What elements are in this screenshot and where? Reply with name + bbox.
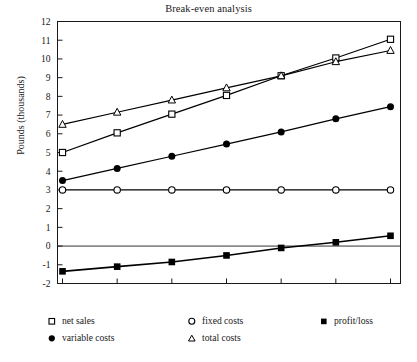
open-circle-marker [333,187,339,193]
filled-square-marker [278,245,285,252]
filled-square-marker [59,268,66,275]
svg-text:-1: -1 [43,259,51,270]
svg-text:1: 1 [46,222,51,233]
series-net-sales [59,36,393,155]
legend-item-net-sales[interactable]: net sales [46,312,114,329]
series-profit-loss [59,232,394,274]
plot-frame [58,22,401,284]
y-tick-labels: 1211109876543210-1-2 [41,16,51,289]
series-variable-costs [59,103,394,184]
filled-circle-marker [59,177,66,184]
svg-text:7: 7 [46,109,51,120]
filled-circle-marker [114,165,121,172]
open-circle-marker [169,187,175,193]
plot-area: 1211109876543210-1-2 [0,0,417,312]
open-square-marker [169,111,175,117]
legend-item-fixed-costs[interactable]: fixed costs [186,312,243,329]
page-footer-fragment [0,353,417,362]
filled-square-marker [387,232,394,239]
legend-label: net sales [60,315,95,326]
filled-circle-icon [46,332,60,344]
legend-label: fixed costs [200,315,243,326]
open-square-marker [223,92,229,98]
svg-text:8: 8 [46,91,51,102]
chart-figure: Break-even analysis Pounds (thousands) 1… [0,0,417,362]
open-square-icon [46,315,60,327]
legend-column-1: net sales variable costs [46,312,114,346]
filled-square-marker [169,259,176,266]
open-circle-marker [387,187,393,193]
open-circle-marker [278,187,284,193]
open-square-marker [114,130,120,136]
filled-circle-marker [168,153,175,160]
open-circle-marker [114,187,120,193]
svg-text:5: 5 [46,147,51,158]
svg-text:12: 12 [41,16,51,27]
filled-square-marker [114,263,121,270]
svg-text:10: 10 [41,53,51,64]
svg-text:-2: -2 [43,278,51,289]
filled-square-marker [333,239,340,246]
open-circle-marker [223,187,229,193]
filled-circle-marker [278,128,285,135]
open-square-marker [59,149,65,155]
open-square-marker [387,36,393,42]
legend-column-2: fixed costs total costs [186,312,243,346]
filled-circle-marker [223,141,230,148]
open-triangle-marker [387,47,394,54]
svg-text:0: 0 [46,240,51,251]
filled-circle-marker [332,115,339,122]
svg-text:3: 3 [46,184,51,195]
filled-circle-marker [387,103,394,110]
series-total-costs [59,47,394,128]
svg-text:4: 4 [46,166,51,177]
svg-text:11: 11 [41,35,50,46]
svg-text:9: 9 [46,72,51,83]
filled-square-icon [318,315,332,327]
data-series [59,36,394,274]
legend-item-variable-costs[interactable]: variable costs [46,329,114,346]
open-circle-marker [59,187,65,193]
svg-text:2: 2 [46,203,51,214]
legend-item-profit-loss[interactable]: profit/loss [318,312,373,329]
legend-label: total costs [200,332,241,343]
open-triangle-icon [186,332,200,344]
legend-label: profit/loss [332,315,373,326]
series-fixed-costs [59,187,393,193]
legend-item-total-costs[interactable]: total costs [186,329,243,346]
open-circle-icon [186,315,200,327]
svg-text:6: 6 [46,128,51,139]
legend-column-3: profit/loss [318,312,373,329]
filled-square-marker [223,252,230,259]
legend-label: variable costs [60,332,114,343]
chart-legend: net sales variable costs fixed costs [0,312,417,352]
